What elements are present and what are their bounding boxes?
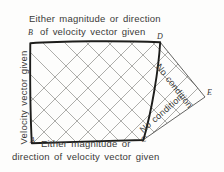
bottom-caption-line-1: Either magnitude or <box>41 138 131 149</box>
vertex-label-d: D <box>157 32 163 41</box>
bottom-caption-line-2: direction of velocity vector given <box>12 151 159 162</box>
vertex-label-a: A <box>30 136 35 145</box>
vertex-label-c: C <box>141 135 147 144</box>
top-caption-line-2: of velocity vector given <box>40 26 145 37</box>
vertex-label-e: E <box>207 88 212 97</box>
crosshatch-grid <box>0 22 224 172</box>
vertex-label-b: B <box>28 28 33 37</box>
left-axis-caption: Velocity vector given <box>18 43 29 153</box>
diagram-figure: Either magnitude or direction of velocit… <box>0 0 224 172</box>
top-caption-line-1: Either magnitude or direction <box>29 13 161 24</box>
